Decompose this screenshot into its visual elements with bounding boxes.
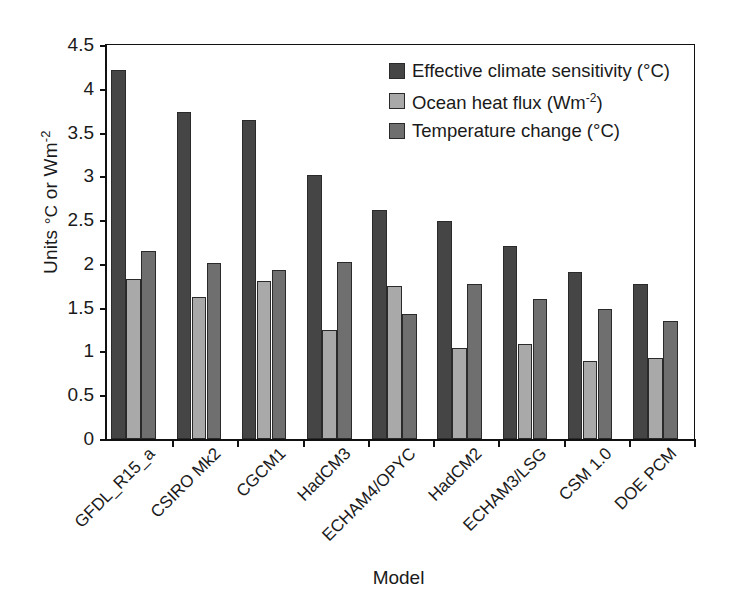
y-axis-tick-mark	[100, 176, 107, 178]
y-axis-tick-mark	[100, 89, 107, 91]
bar	[518, 344, 533, 439]
y-axis-tick-label: 4	[34, 78, 94, 97]
legend-item: Temperature change (°C)	[389, 118, 670, 143]
bar	[633, 284, 648, 439]
x-axis-tick-labels: GFDL_R15_aCSIRO Mk2CGCM1HadCM3ECHAM4/OPY…	[105, 444, 692, 564]
bar-group	[172, 45, 237, 439]
y-axis-tick-label: 2	[34, 253, 94, 272]
y-axis-tick-label: 2.5	[34, 210, 94, 229]
bar	[111, 70, 126, 439]
legend-label-exponent: -2	[586, 91, 597, 105]
medium-swatch	[389, 123, 405, 139]
bar	[583, 361, 598, 439]
y-axis-tick-mark	[100, 133, 107, 135]
bar	[141, 251, 156, 439]
legend-label: Effective climate sensitivity (°C)	[412, 58, 670, 83]
bar	[372, 210, 387, 439]
bar	[242, 120, 257, 439]
bar	[598, 309, 613, 439]
bar	[663, 321, 678, 439]
bar	[337, 262, 352, 439]
bar	[126, 279, 141, 439]
y-axis-tick-mark	[100, 308, 107, 310]
legend-item: Ocean heat flux (Wm-2)	[389, 86, 670, 115]
y-axis-tick-mark	[100, 45, 107, 47]
bar	[568, 272, 583, 439]
y-axis-tick-mark	[100, 264, 107, 266]
y-axis-tick-label: 1.5	[34, 297, 94, 316]
bar-group	[303, 45, 368, 439]
bar	[307, 175, 322, 439]
x-axis-title: Model	[105, 567, 692, 589]
light-swatch	[389, 93, 405, 109]
x-axis-tick-mark	[694, 439, 696, 447]
bar	[503, 246, 518, 439]
y-axis-tick-label: 3.5	[34, 122, 94, 141]
y-axis-tick-mark	[100, 439, 107, 441]
y-axis-tick-label: 1	[34, 341, 94, 360]
bar	[272, 270, 287, 439]
bar-group	[237, 45, 302, 439]
bar	[257, 281, 272, 439]
bar	[533, 299, 548, 439]
legend-label: Temperature change (°C)	[412, 118, 620, 143]
bar	[648, 358, 663, 439]
bar	[467, 284, 482, 439]
dark-swatch	[389, 63, 405, 79]
bar	[177, 112, 192, 439]
bar	[402, 314, 417, 439]
y-axis-tick-label: 4.5	[34, 35, 94, 54]
legend-item: Effective climate sensitivity (°C)	[389, 58, 670, 83]
bar	[192, 297, 207, 439]
y-axis-tick-mark	[100, 220, 107, 222]
bar	[207, 263, 222, 439]
y-axis-tick-label: 0	[34, 429, 94, 448]
bar-chart-figure: Units °C or Wm-2 4.543.532.521.510.50 GF…	[0, 0, 738, 615]
bar	[452, 348, 467, 439]
bar	[387, 286, 402, 439]
y-axis-tick-mark	[100, 351, 107, 353]
y-axis-tick-label: 3	[34, 166, 94, 185]
chart-legend: Effective climate sensitivity (°C)Ocean …	[389, 58, 670, 146]
y-axis-tick-mark	[100, 395, 107, 397]
y-axis-tick-label: 0.5	[34, 385, 94, 404]
bar	[437, 221, 452, 439]
bar	[322, 330, 337, 439]
bar-group	[107, 45, 172, 439]
legend-label: Ocean heat flux (Wm-2)	[412, 86, 603, 115]
